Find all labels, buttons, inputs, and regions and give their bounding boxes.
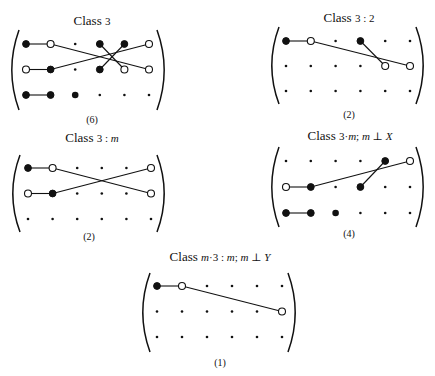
- right-parenthesis: [416, 27, 423, 104]
- title-symbol: m: [362, 130, 370, 142]
- panel-title: Class 3 : 2: [324, 10, 375, 25]
- lattice-point-small: [409, 212, 412, 215]
- lattice-point-small: [384, 40, 387, 43]
- lattice-point-small: [231, 310, 234, 313]
- lattice-point-small: [285, 90, 288, 93]
- lattice-point-open: [121, 66, 128, 73]
- connection-line: [182, 286, 282, 312]
- title-symbol: m: [348, 130, 356, 142]
- lattice-point-small: [334, 65, 337, 68]
- lattice-point-small: [74, 68, 77, 71]
- right-parenthesis: [416, 147, 423, 227]
- lattice-point-small: [231, 336, 234, 339]
- lattice-point-filled: [382, 158, 389, 165]
- lattice-point-open: [382, 63, 389, 70]
- lattice-point-filled: [47, 66, 54, 73]
- lattice-point-small: [125, 218, 128, 221]
- lattice-point-large: [332, 210, 339, 217]
- lattice-point-small: [101, 218, 104, 221]
- panel-title: Class 3: [74, 13, 111, 28]
- left-parenthesis: [12, 30, 19, 110]
- title-symbol: m: [240, 251, 248, 263]
- lattice-point-small: [310, 160, 313, 163]
- lattice-point-open: [25, 190, 32, 197]
- lattice-point-small: [334, 90, 337, 93]
- title-symbol: 3 : 2: [355, 12, 375, 24]
- right-parenthesis: [288, 273, 295, 352]
- panel-count-label: (1): [214, 357, 226, 369]
- lattice-point-small: [384, 186, 387, 189]
- title-symbol: Y: [264, 251, 272, 263]
- title-symbol: 3 :: [97, 132, 111, 144]
- title-symbol: ⊥: [370, 130, 386, 142]
- lattice-point-small: [51, 218, 54, 221]
- lattice-point-small: [384, 90, 387, 93]
- lattice-point-open: [407, 63, 414, 70]
- lattice-point-open: [146, 41, 153, 48]
- lattice-point-small: [310, 90, 313, 93]
- lattice-point-small: [285, 65, 288, 68]
- lattice-point-small: [123, 94, 126, 97]
- lattice-point-small: [256, 285, 259, 288]
- right-parenthesis: [157, 30, 164, 110]
- lattice-point-filled: [283, 210, 290, 217]
- lattice-point-large: [72, 92, 79, 99]
- lattice-point-filled: [23, 41, 30, 48]
- lattice-point-small: [334, 40, 337, 43]
- lattice-point-small: [156, 310, 159, 313]
- lattice-point-small: [181, 336, 184, 339]
- lattice-point-small: [359, 90, 362, 93]
- panel-class-3: Class 3(6): [12, 13, 164, 126]
- lattice-point-filled: [307, 210, 314, 217]
- panel-count-label: (2): [83, 231, 95, 243]
- lattice-point-open: [148, 190, 155, 197]
- lattice-point-small: [359, 65, 362, 68]
- lattice-point-filled: [23, 92, 30, 99]
- left-parenthesis: [272, 147, 279, 227]
- lattice-point-filled: [154, 283, 161, 290]
- title-prefix: Class: [308, 128, 339, 143]
- panel-title: Class 3 : m: [65, 130, 118, 145]
- lattice-point-small: [125, 167, 128, 170]
- lattice-point-open: [307, 38, 314, 45]
- title-prefix: Class: [65, 130, 96, 145]
- lattice-point-filled: [121, 41, 128, 48]
- title-symbol: m: [111, 132, 119, 144]
- connection-line: [360, 161, 385, 187]
- lattice-point-small: [206, 336, 209, 339]
- title-symbol: m: [201, 251, 209, 263]
- lattice-point-small: [409, 40, 412, 43]
- lattice-point-small: [99, 94, 102, 97]
- lattice-point-filled: [357, 184, 364, 191]
- lattice-point-small: [76, 167, 79, 170]
- title-symbol: ·3 :: [209, 251, 227, 263]
- title-symbol: 3·: [339, 130, 348, 142]
- panel-title: Class m·3 : m; m ⊥ Y: [170, 249, 273, 264]
- title-symbol: ⊥: [248, 251, 264, 263]
- right-parenthesis: [157, 155, 164, 232]
- lattice-point-filled: [49, 190, 56, 197]
- title-prefix: Class: [74, 13, 105, 28]
- title-prefix: Class: [324, 10, 355, 25]
- lattice-point-small: [409, 186, 412, 189]
- panel-count-label: (4): [343, 228, 355, 240]
- lattice-point-small: [334, 186, 337, 189]
- connection-line: [360, 41, 385, 66]
- lattice-point-filled: [307, 184, 314, 191]
- lattice-point-small: [231, 285, 234, 288]
- title-symbol: 3: [105, 15, 111, 27]
- lattice-point-small: [359, 212, 362, 215]
- lattice-point-open: [146, 66, 153, 73]
- lattice-point-small: [76, 218, 79, 221]
- panel-count-label: (6): [86, 114, 98, 126]
- lattice-point-small: [310, 65, 313, 68]
- lattice-point-filled: [47, 92, 54, 99]
- lattice-point-filled: [283, 38, 290, 45]
- lattice-point-open: [148, 165, 155, 172]
- lattice-point-small: [359, 160, 362, 163]
- lattice-point-open: [47, 41, 54, 48]
- lattice-point-small: [150, 218, 153, 221]
- lattice-point-small: [409, 90, 412, 93]
- lattice-point-small: [285, 160, 288, 163]
- lattice-point-small: [74, 43, 77, 46]
